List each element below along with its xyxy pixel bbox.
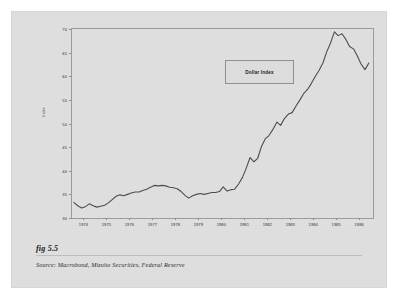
y-tick-label: 35 [41,192,67,197]
x-tick-minor-mark [204,218,205,219]
figure-card: Index 303540455055606570 197419751976197… [12,12,386,287]
x-tick-minor-mark [353,218,354,219]
figure-page: Index 303540455055606570 197419751976197… [0,0,398,299]
x-tick-minor-mark [256,218,257,219]
x-tick-minor-mark [319,218,320,219]
x-tick-label: 1986 [355,222,364,227]
x-tick-mark [83,218,84,220]
x-tick-mark [221,218,222,220]
figure-caption: fig 5.5 Source: Macrobond, Mizuho Securi… [36,244,362,268]
x-tick-mark [129,218,130,220]
x-tick-mark [106,218,107,220]
x-tick-minor-mark [250,218,251,219]
x-tick-minor-mark [95,218,96,219]
x-tick-label: 1982 [263,222,272,227]
y-tick-label: 60 [41,74,67,79]
x-tick-label: 1975 [102,222,111,227]
x-tick-minor-mark [141,218,142,219]
x-tick-minor-mark [124,218,125,219]
x-tick-minor-mark [342,218,343,219]
x-tick-minor-mark [164,218,165,219]
x-tick-mark [152,218,153,220]
x-tick-label: 1977 [148,222,157,227]
x-tick-label: 1984 [309,222,318,227]
series-dollar-index [72,29,373,218]
x-tick-minor-mark [325,218,326,219]
x-tick-minor-mark [348,218,349,219]
y-tick-label: 70 [41,27,67,32]
x-tick-label: 1976 [125,222,134,227]
x-tick-label: 1978 [171,222,180,227]
x-tick-minor-mark [135,218,136,219]
x-tick-minor-mark [262,218,263,219]
x-tick-minor-mark [330,218,331,219]
x-tick-mark [359,218,360,220]
x-tick-minor-mark [302,218,303,219]
x-tick-minor-mark [308,218,309,219]
y-tick-label: 55 [41,97,67,102]
x-tick-minor-mark [112,218,113,219]
figure-source: Source: Macrobond, Mizuho Securities, Fe… [36,261,362,268]
x-tick-minor-mark [181,218,182,219]
x-tick-minor-mark [233,218,234,219]
x-tick-minor-mark [296,218,297,219]
x-tick-mark [175,218,176,220]
x-tick-minor-mark [365,218,366,219]
x-tick-label: 1985 [332,222,341,227]
y-axis-ticks: 303540455055606570 [28,18,71,219]
x-tick-mark [290,218,291,220]
chart-container: Index 303540455055606570 197419751976197… [28,18,376,234]
series-line [74,32,369,208]
x-tick-mark [198,218,199,220]
x-tick-label: 1983 [286,222,295,227]
x-tick-minor-mark [279,218,280,219]
x-tick-mark [244,218,245,220]
caption-divider [36,255,362,256]
x-tick-minor-mark [193,218,194,219]
x-tick-minor-mark [216,218,217,219]
x-tick-minor-mark [147,218,148,219]
x-tick-minor-mark [101,218,102,219]
x-tick-minor-mark [170,218,171,219]
x-tick-minor-mark [371,218,372,219]
x-tick-mark [336,218,337,220]
x-tick-minor-mark [187,218,188,219]
y-tick-label: 45 [41,145,67,150]
x-tick-label: 1979 [194,222,203,227]
x-tick-minor-mark [227,218,228,219]
x-tick-minor-mark [273,218,274,219]
x-tick-mark [267,218,268,220]
y-tick-label: 40 [41,168,67,173]
x-tick-minor-mark [158,218,159,219]
x-tick-label: 1980 [217,222,226,227]
x-tick-minor-mark [210,218,211,219]
y-tick-label: 65 [41,50,67,55]
plot-area [71,28,374,219]
y-tick-label: 50 [41,121,67,126]
x-tick-mark [313,218,314,220]
y-tick-label: 30 [41,216,67,221]
x-tick-minor-mark [239,218,240,219]
legend-label-dollar-index: Dollar Index [245,70,274,75]
x-tick-label: 1974 [79,222,88,227]
x-tick-minor-mark [118,218,119,219]
figure-label: fig 5.5 [36,244,362,253]
chart-legend: Dollar Index [225,60,294,84]
x-tick-minor-mark [89,218,90,219]
x-tick-label: 1981 [240,222,249,227]
x-tick-minor-mark [285,218,286,219]
